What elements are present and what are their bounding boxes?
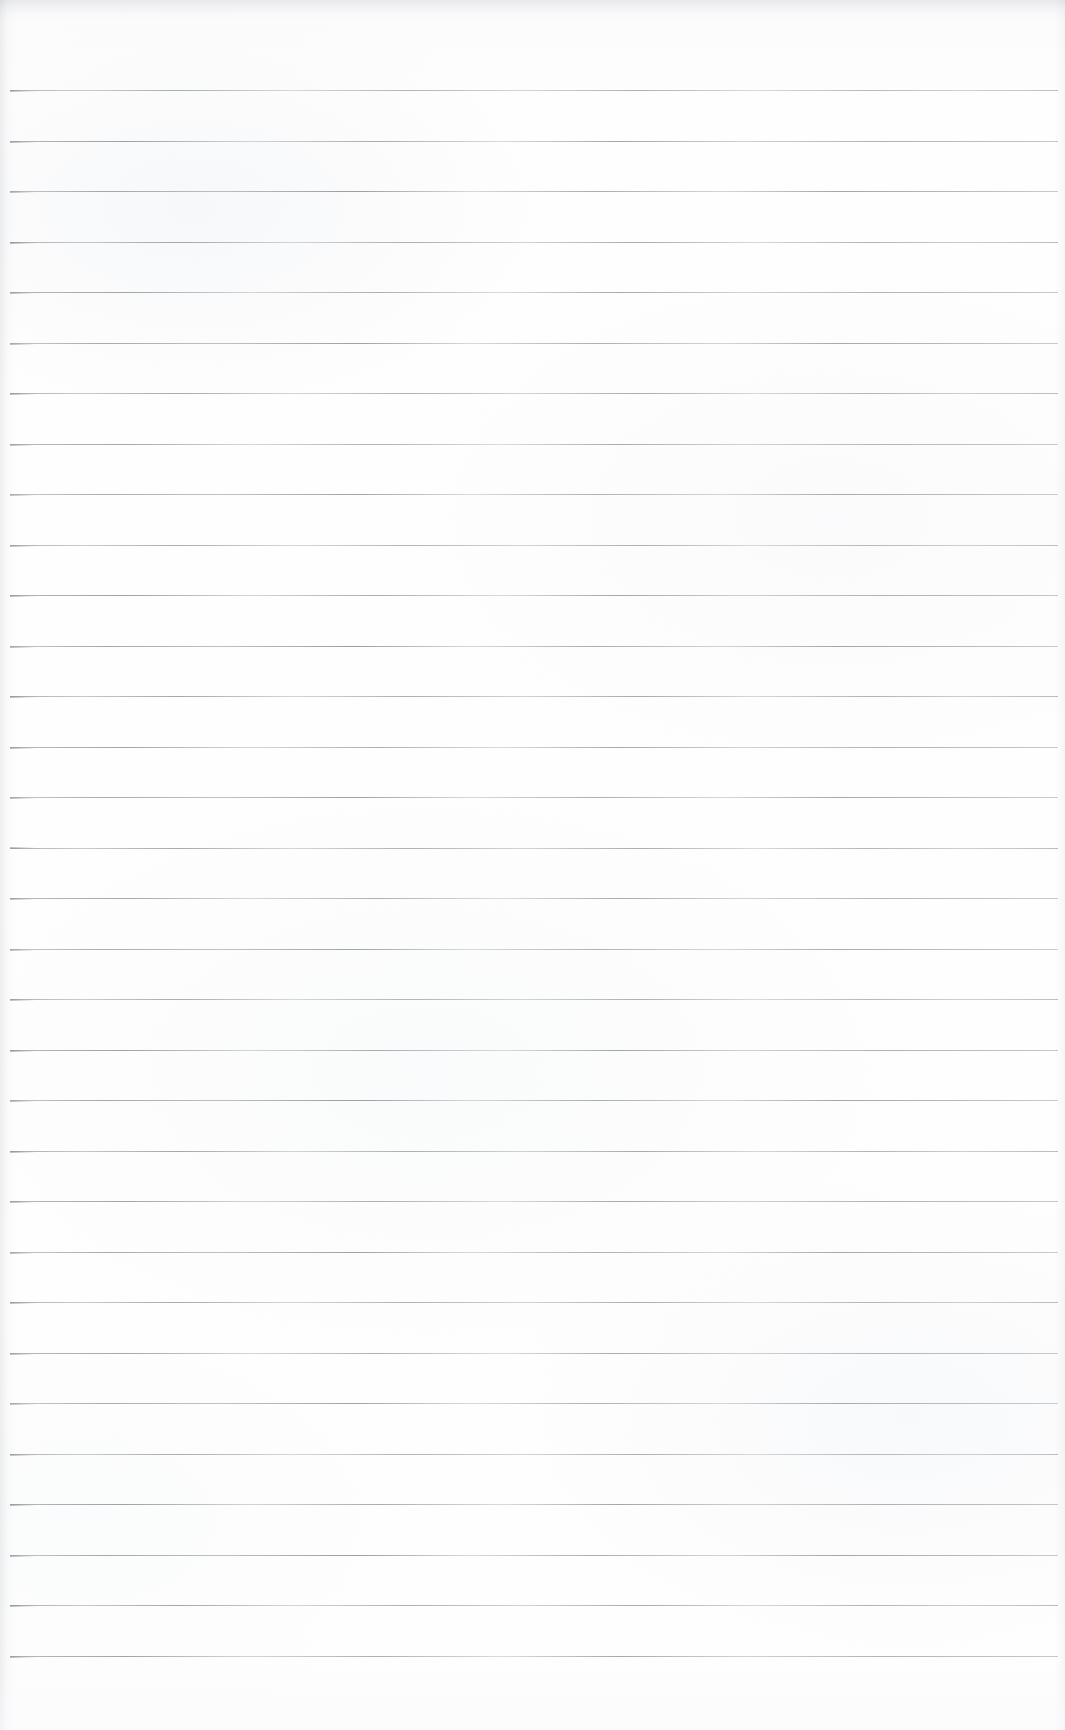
rule-line-left-cap bbox=[10, 746, 36, 748]
rule-line-ink bbox=[10, 948, 1058, 949]
rule-line-left-cap bbox=[10, 1352, 36, 1354]
rule-line-ink bbox=[10, 595, 1058, 596]
rule-line-ink bbox=[10, 1453, 1058, 1454]
rule-line bbox=[10, 645, 1058, 646]
rule-line bbox=[10, 1251, 1058, 1252]
rule-line-ink bbox=[10, 696, 1058, 697]
rule-line bbox=[10, 1100, 1058, 1101]
rule-line-ink bbox=[10, 1049, 1058, 1050]
rule-line-left-cap bbox=[10, 847, 36, 849]
rule-line-ink bbox=[10, 1100, 1058, 1101]
rule-line-left-cap bbox=[10, 1604, 36, 1606]
rule-line-ink bbox=[10, 494, 1058, 495]
rule-line-left-cap bbox=[10, 393, 36, 395]
rule-line-left-cap bbox=[10, 140, 36, 142]
rule-line-ink bbox=[10, 1504, 1058, 1505]
rule-line-ink bbox=[10, 443, 1058, 444]
ruled-lines-layer bbox=[0, 0, 1065, 1730]
rule-line-ink bbox=[10, 1605, 1058, 1606]
rule-line-left-cap bbox=[10, 1301, 36, 1303]
rule-line-left-cap bbox=[10, 897, 36, 899]
rule-line bbox=[10, 1049, 1058, 1050]
rule-line bbox=[10, 393, 1058, 394]
rule-line-left-cap bbox=[10, 241, 36, 243]
rule-line-left-cap bbox=[10, 544, 36, 546]
rule-line-left-cap bbox=[10, 1504, 36, 1506]
rule-line-ink bbox=[10, 645, 1058, 646]
rule-line bbox=[10, 898, 1058, 899]
rule-line-left-cap bbox=[10, 797, 36, 799]
rule-line-left-cap bbox=[10, 594, 36, 596]
rule-line bbox=[10, 241, 1058, 242]
rule-line-ink bbox=[10, 140, 1058, 141]
rule-line bbox=[10, 1150, 1058, 1151]
rule-line bbox=[10, 1504, 1058, 1505]
rule-line-ink bbox=[10, 999, 1058, 1000]
rule-line-left-cap bbox=[10, 1251, 36, 1253]
rule-line bbox=[10, 1403, 1058, 1404]
rule-line bbox=[10, 443, 1058, 444]
rule-line-ink bbox=[10, 848, 1058, 849]
rule-line-left-cap bbox=[10, 1201, 36, 1203]
rule-line bbox=[10, 595, 1058, 596]
rule-line-ink bbox=[10, 1352, 1058, 1353]
rule-line-ink bbox=[10, 241, 1058, 242]
rule-line-left-cap bbox=[10, 1554, 36, 1556]
rule-line-ink bbox=[10, 898, 1058, 899]
rule-line-left-cap bbox=[10, 1049, 36, 1051]
rule-line-ink bbox=[10, 393, 1058, 394]
rule-line bbox=[10, 1605, 1058, 1606]
rule-line-left-cap bbox=[10, 1403, 36, 1405]
rule-line bbox=[10, 1201, 1058, 1202]
rule-line bbox=[10, 1655, 1058, 1656]
rule-line bbox=[10, 342, 1058, 343]
rule-line-ink bbox=[10, 191, 1058, 192]
rule-line-left-cap bbox=[10, 493, 36, 495]
scanned-page bbox=[0, 0, 1065, 1730]
rule-line-ink bbox=[10, 1302, 1058, 1303]
rule-line-ink bbox=[10, 1150, 1058, 1151]
rule-line-ink bbox=[10, 1201, 1058, 1202]
rule-line-ink bbox=[10, 544, 1058, 545]
rule-line bbox=[10, 999, 1058, 1000]
rule-line bbox=[10, 746, 1058, 747]
rule-line-ink bbox=[10, 1251, 1058, 1252]
rule-line bbox=[10, 1453, 1058, 1454]
rule-line bbox=[10, 1352, 1058, 1353]
rule-line-ink bbox=[10, 292, 1058, 293]
rule-line bbox=[10, 1302, 1058, 1303]
rule-line-ink bbox=[10, 1655, 1058, 1656]
rule-line-left-cap bbox=[10, 1150, 36, 1152]
rule-line bbox=[10, 191, 1058, 192]
rule-line bbox=[10, 948, 1058, 949]
rule-line-left-cap bbox=[10, 190, 36, 192]
rule-line-ink bbox=[10, 342, 1058, 343]
rule-line-left-cap bbox=[10, 948, 36, 950]
rule-line-left-cap bbox=[10, 1100, 36, 1102]
rule-line bbox=[10, 848, 1058, 849]
rule-line bbox=[10, 140, 1058, 141]
rule-line-left-cap bbox=[10, 1453, 36, 1455]
rule-line-left-cap bbox=[10, 443, 36, 445]
rule-line bbox=[10, 544, 1058, 545]
rule-line-ink bbox=[10, 746, 1058, 747]
rule-line-ink bbox=[10, 1403, 1058, 1404]
rule-line bbox=[10, 494, 1058, 495]
rule-line-left-cap bbox=[10, 998, 36, 1000]
rule-line-left-cap bbox=[10, 292, 36, 294]
rule-line-ink bbox=[10, 1554, 1058, 1555]
rule-line-left-cap bbox=[10, 1655, 36, 1657]
rule-line bbox=[10, 292, 1058, 293]
rule-line bbox=[10, 696, 1058, 697]
rule-line-left-cap bbox=[10, 342, 36, 344]
rule-line bbox=[10, 90, 1058, 91]
rule-line-left-cap bbox=[10, 696, 36, 698]
rule-line bbox=[10, 797, 1058, 798]
rule-line-left-cap bbox=[10, 90, 36, 92]
rule-line-ink bbox=[10, 797, 1058, 798]
rule-line-left-cap bbox=[10, 645, 36, 647]
rule-line-ink bbox=[10, 90, 1058, 91]
rule-line bbox=[10, 1554, 1058, 1555]
